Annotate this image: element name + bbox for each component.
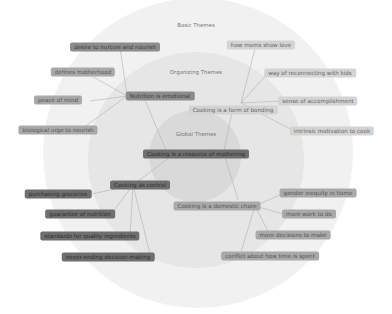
basic-theme-node[interactable]: defines motherhood xyxy=(51,68,115,77)
basic-theme-node[interactable]: way of reconnecting with kids xyxy=(264,69,356,78)
basic-theme-node[interactable]: intrinsic motivation to cook xyxy=(290,127,374,136)
organizing-theme-chore[interactable]: Cooking is a domestic chore xyxy=(174,202,261,211)
global-theme-node[interactable]: Cooking is a resource of mothering xyxy=(143,150,249,159)
basic-theme-node[interactable]: purchasing groceries xyxy=(25,190,92,199)
organizing-theme-bonding[interactable]: Cooking is a form of bonding xyxy=(189,106,278,115)
organizing-theme-control[interactable]: Cooking as control xyxy=(110,181,170,190)
basic-theme-node[interactable]: more work to do xyxy=(282,210,336,219)
basic-theme-node[interactable]: gender inequity in home xyxy=(280,189,357,198)
organizing-theme-nutrition[interactable]: Nutrition is emotional xyxy=(126,92,195,101)
basic-theme-node[interactable]: never-ending decision-making xyxy=(62,253,155,262)
basic-theme-node[interactable]: guarantee of nutrition xyxy=(45,210,115,219)
basic-theme-node[interactable]: sense of accomplishment xyxy=(278,97,357,106)
basic-theme-node[interactable]: standards for quality ingredients xyxy=(40,232,139,241)
basic-theme-node[interactable]: desire to nurture and nourish xyxy=(70,43,160,52)
basic-theme-node[interactable]: more decisions to make xyxy=(256,231,331,240)
basic-theme-node[interactable]: peace of mind xyxy=(34,96,82,105)
basic-theme-node[interactable]: biological urge to nourish xyxy=(18,126,97,135)
basic-theme-node[interactable]: how moms show love xyxy=(227,41,295,50)
basic-theme-node[interactable]: conflict about how time is spent xyxy=(221,252,319,261)
